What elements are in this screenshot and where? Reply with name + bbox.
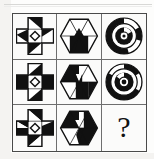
puzzle-page: ?: [0, 0, 154, 159]
question-mark-icon: ?: [117, 112, 130, 142]
hexagon-shape-icon: [58, 108, 100, 148]
matrix-cell-r1c1[interactable]: [13, 14, 57, 60]
matrix-grid: ?: [12, 13, 147, 152]
ring-shape-icon: [104, 62, 144, 102]
page-top-rule-secondary: [4, 6, 152, 7]
page-bottom-margin: [0, 153, 154, 159]
cross-shape-icon: [15, 16, 55, 56]
page-left-margin: [0, 0, 11, 159]
hexagon-shape-icon: [58, 16, 100, 56]
matrix-cell-r3c1[interactable]: [13, 105, 57, 151]
hexagon-shape-icon: [58, 62, 100, 102]
cross-shape-icon: [15, 108, 55, 148]
matrix-cell-r2c1[interactable]: [13, 60, 57, 106]
page-top-rule: [4, 4, 152, 5]
matrix-cell-r3c3[interactable]: ?: [102, 105, 146, 151]
ring-shape-icon: [104, 16, 144, 56]
matrix-cell-r1c2[interactable]: [57, 14, 101, 60]
matrix-cell-r2c2[interactable]: [57, 60, 101, 106]
matrix-cell-r3c2[interactable]: [57, 105, 101, 151]
matrix-cell-r1c3[interactable]: [102, 14, 146, 60]
cross-shape-icon: [15, 62, 55, 102]
matrix-cell-r2c3[interactable]: [102, 60, 146, 106]
